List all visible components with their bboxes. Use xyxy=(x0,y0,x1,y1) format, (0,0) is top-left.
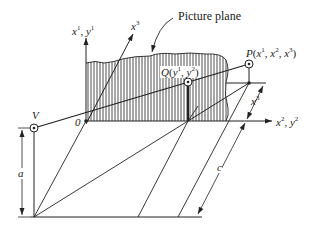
picture-plane-leader xyxy=(152,18,173,52)
parallel-1 xyxy=(138,121,188,217)
base-to-origin xyxy=(34,121,86,217)
p-foot-to-q-foot xyxy=(188,83,249,121)
axis-x1-y1-label: x1, y1 xyxy=(72,25,94,37)
axis-x3-label: x3 xyxy=(131,20,139,32)
dimension-c-label: c xyxy=(217,162,222,173)
viewpoint-label: V xyxy=(32,110,39,121)
dimension-a-label: a xyxy=(18,168,24,179)
point-q-marker xyxy=(184,78,192,86)
viewpoint-marker xyxy=(30,124,38,132)
depth-x3-label: x3 xyxy=(251,95,259,107)
picture-plane-label: Picture plane xyxy=(178,10,241,22)
origin-label: 0 xyxy=(75,117,81,128)
base-to-q-foot xyxy=(34,121,188,217)
axis-x2-y2-label: x2, y2 xyxy=(276,116,298,128)
point-p-label: P(x1, x2, x3) xyxy=(246,47,296,59)
diagram-canvas: Picture plane x1, y1 x3 x2, y2 x3 0 V P(… xyxy=(0,0,322,228)
picture-plane xyxy=(88,50,226,122)
point-p-marker xyxy=(245,60,253,68)
diagram-drawing xyxy=(0,0,322,228)
point-q-label: Q(y1, y2) xyxy=(160,66,200,78)
